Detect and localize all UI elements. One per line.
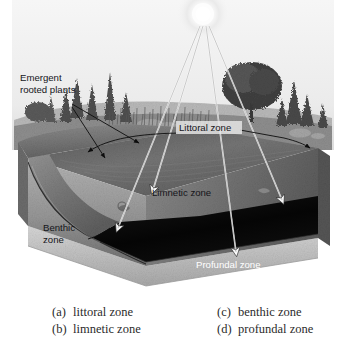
answer-text-c: benthic zone [238, 304, 302, 321]
answer-option-b[interactable]: (b) limnetic zone [52, 321, 141, 338]
lake-zonation-figure: Emergent rooted plants Littoral zone Lim… [0, 0, 346, 300]
label-littoral-zone: Littoral zone [179, 122, 231, 133]
answer-key-b: (b) [52, 321, 73, 338]
answer-option-c[interactable]: (c) benthic zone [217, 304, 313, 321]
answer-key-d: (d) [217, 321, 238, 338]
answer-column-right: (c) benthic zone (d) profundal zone [217, 304, 313, 338]
answer-option-a[interactable]: (a) littoral zone [52, 304, 141, 321]
answer-text-b: limnetic zone [73, 321, 141, 338]
label-emergent-rooted-plants-line1: Emergent [20, 72, 62, 83]
label-profundal-zone: Profundal zone [196, 259, 261, 270]
answer-key-c: (c) [217, 304, 238, 321]
answer-option-d[interactable]: (d) profundal zone [217, 321, 313, 338]
answer-text-a: littoral zone [73, 304, 133, 321]
answer-text-d: profundal zone [238, 321, 313, 338]
label-emergent-rooted-plants-line2: rooted plants [20, 84, 76, 95]
label-benthic-zone-line1: Benthic [43, 222, 75, 233]
answer-options: (a) littoral zone (b) limnetic zone (c) … [0, 298, 346, 355]
label-limnetic-zone: Limnetic zone [152, 187, 211, 198]
label-benthic-zone-line2: zone [43, 234, 64, 245]
answer-key-a: (a) [52, 304, 73, 321]
answer-column-left: (a) littoral zone (b) limnetic zone [52, 304, 141, 338]
block-right-wall [318, 148, 330, 246]
